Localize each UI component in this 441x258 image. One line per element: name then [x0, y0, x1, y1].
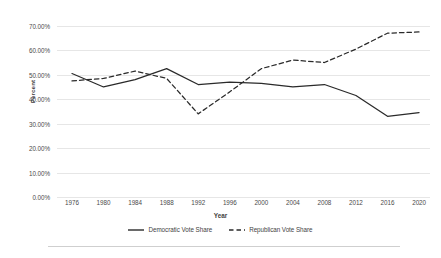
footer-divider: [48, 246, 400, 247]
legend-item-democratic[interactable]: Democratic Vote Share: [128, 226, 212, 233]
plot-area: [0, 0, 441, 258]
vote-share-line-chart: Percent 0.00%10.00%20.00%30.00%40.00%50.…: [0, 0, 441, 258]
chart-legend: Democratic Vote Share Republican Vote Sh…: [0, 226, 441, 233]
legend-swatch-solid-icon: [128, 227, 144, 233]
legend-label-republican: Republican Vote Share: [249, 226, 312, 233]
legend-swatch-dashed-icon: [229, 227, 245, 233]
legend-item-republican[interactable]: Republican Vote Share: [229, 226, 312, 233]
democratic-vote-share-line: [72, 69, 419, 117]
republican-vote-share-line: [72, 32, 419, 114]
legend-label-democratic: Democratic Vote Share: [148, 226, 212, 233]
x-axis-title: Year: [0, 212, 441, 219]
